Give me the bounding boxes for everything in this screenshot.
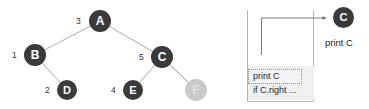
frame-statement-print: print C	[248, 69, 302, 84]
tree-node-c-label: C	[158, 51, 167, 63]
tree-node-c-order: 5	[139, 53, 144, 62]
tree-node-f[interactable]: F	[185, 79, 207, 101]
tree-node-f-label: F	[192, 84, 199, 96]
tree-node-e[interactable]: E	[123, 80, 143, 100]
call-stack-frame[interactable]: print C if C.right ...	[248, 66, 314, 100]
tree-node-d-order: 2	[45, 86, 50, 95]
tree-node-d-label: D	[63, 85, 71, 96]
pointer-path	[262, 18, 327, 55]
tree-node-e-order: 4	[111, 86, 116, 95]
tree-node-e-label: E	[129, 85, 136, 96]
tree-node-a-label: A	[96, 15, 105, 27]
tree-node-a-order: 3	[76, 17, 81, 26]
tree-node-b-order: 1	[12, 51, 17, 60]
tree-node-c[interactable]: C	[151, 46, 173, 68]
result-node-c[interactable]: C	[333, 7, 354, 28]
tree-node-b[interactable]: B	[24, 44, 46, 66]
frame-statement-if-right: if C.right ...	[248, 86, 314, 95]
result-caption: print C	[325, 38, 353, 48]
tree-node-a[interactable]: A	[89, 10, 111, 32]
tree-node-d[interactable]: D	[57, 80, 77, 100]
result-node-c-label: C	[340, 12, 348, 23]
diagram-canvas: A 3 B 1 C 5 D 2 E 4 F print C if C.right…	[0, 0, 369, 109]
tree-node-b-label: B	[31, 49, 40, 61]
